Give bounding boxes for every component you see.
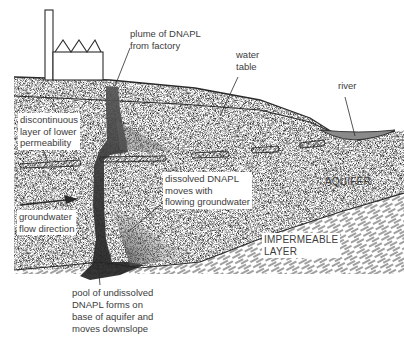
water-table-label: water table — [236, 49, 259, 72]
dissolved-label-line: flowing groundwater — [165, 196, 250, 208]
pool-label-line: pool of undissolved — [72, 287, 153, 299]
flow-direction-label: groundwater flow direction — [17, 210, 76, 235]
impermeable-label-line: IMPERMEABLE — [264, 234, 338, 246]
discontinuous-layer-label-line: permeability — [20, 137, 78, 149]
impermeable-label-line: LAYER — [264, 246, 338, 258]
discontinuous-layer-label-line: discontinuous — [20, 114, 78, 126]
flow-direction-label-line: groundwater — [19, 211, 74, 223]
plume-label-line: from factory — [130, 40, 201, 52]
river-label: river — [338, 80, 356, 92]
plume-label: plume of DNAPL from factory — [130, 28, 201, 51]
discontinuous-layer-label-line: layer of lower — [20, 126, 78, 138]
impermeable-layer-label: IMPERMEABLE LAYER — [262, 233, 340, 258]
factory-icon — [45, 10, 103, 80]
aquifer-label: AQUIFER — [325, 176, 371, 188]
water-table-label-line: water — [236, 49, 259, 61]
pool-label: pool of undissolved DNAPL forms on base … — [72, 287, 153, 335]
discontinuous-layer-label: discontinuous layer of lower permeabilit… — [18, 113, 80, 150]
dissolved-dnapl-label: dissolved DNAPL moves with flowing groun… — [163, 172, 252, 209]
flow-direction-label-line: flow direction — [19, 223, 74, 235]
dissolved-label-line: moves with — [165, 185, 250, 197]
water-table-label-line: table — [236, 61, 259, 73]
pool-label-line: DNAPL forms on — [72, 299, 153, 311]
pool-label-line: moves downslope — [72, 323, 153, 335]
pool-label-line: base of aquifer and — [72, 311, 153, 323]
dissolved-label-line: dissolved DNAPL — [165, 173, 250, 185]
plume-label-line: plume of DNAPL — [130, 28, 201, 40]
